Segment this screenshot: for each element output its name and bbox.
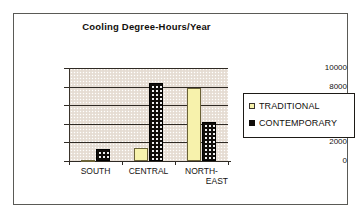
bar-central-traditional — [134, 148, 148, 161]
bar-south-traditional — [81, 160, 95, 162]
legend-swatch-traditional-icon — [249, 103, 255, 109]
gridline — [70, 68, 228, 69]
bar-north-east-traditional — [187, 88, 201, 161]
y-axis-label: 0 — [299, 157, 347, 165]
x-axis-tick — [228, 161, 229, 165]
bar-central-contemporary — [149, 83, 163, 161]
chart-title: Cooling Degree-Hours/Year — [14, 21, 279, 32]
x-axis-tick — [69, 161, 70, 165]
bar-north-east-contemporary — [202, 122, 216, 161]
x-axis-tick — [175, 161, 176, 165]
legend-item: TRADITIONAL — [249, 101, 320, 111]
category-label: SOUTH — [69, 166, 122, 176]
chart-frame: Cooling Degree-Hours/Year 10000800060004… — [13, 13, 348, 205]
y-axis-label: 8000 — [299, 83, 347, 91]
chart-legend: TRADITIONALCONTEMPORARY — [243, 93, 355, 138]
category-label-line: EAST — [175, 176, 228, 186]
x-axis-tick — [122, 161, 123, 165]
category-label: CENTRAL — [122, 166, 175, 176]
legend-swatch-contemporary-icon — [249, 120, 255, 126]
category-label-line: CENTRAL — [122, 166, 175, 176]
y-axis-label: 10000 — [299, 64, 347, 72]
bar-south-contemporary — [96, 149, 110, 161]
legend-label: TRADITIONAL — [259, 101, 320, 111]
legend-item: CONTEMPORARY — [249, 118, 337, 128]
category-label: NORTH-EAST — [175, 166, 228, 186]
legend-label: CONTEMPORARY — [259, 118, 337, 128]
y-axis-label: 2000 — [299, 138, 347, 146]
category-label-line: SOUTH — [69, 166, 122, 176]
category-label-line: NORTH- — [175, 166, 228, 176]
